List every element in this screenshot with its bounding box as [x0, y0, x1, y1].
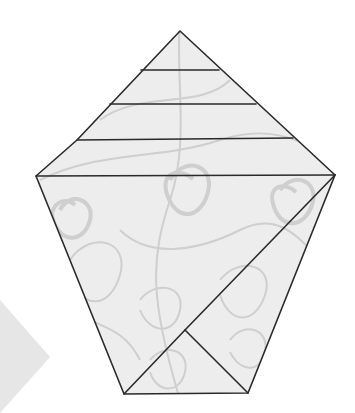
direction-arrow-icon: [0, 300, 50, 413]
diagram-canvas: [0, 0, 355, 413]
fold-diagram: [0, 0, 355, 413]
horizontal-fold-line: [36, 175, 335, 176]
